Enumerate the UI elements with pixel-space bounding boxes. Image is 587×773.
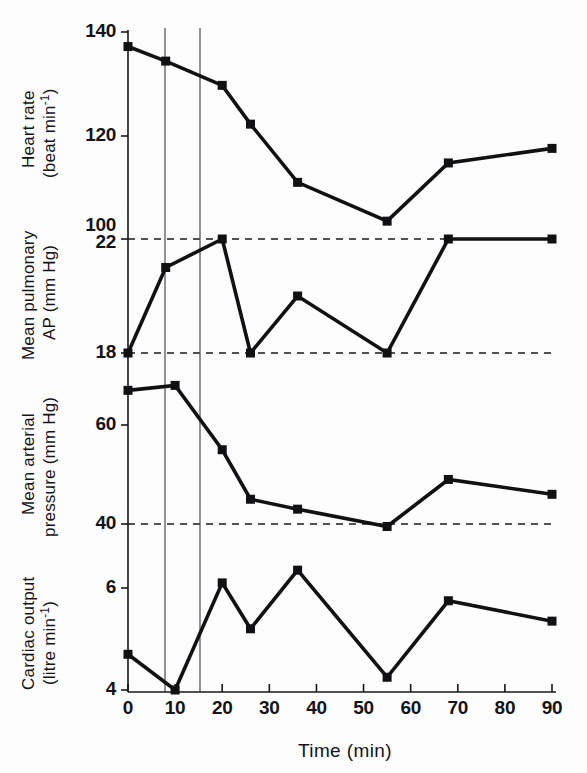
axis-title-pap-line1: Mean pulmonary [19, 230, 38, 360]
y-tick-co-4: 4 [106, 678, 117, 699]
data-point-marker [161, 263, 170, 272]
data-point-marker [293, 178, 302, 187]
data-point-marker [218, 81, 227, 90]
data-point-marker [218, 445, 227, 454]
data-point-marker [124, 386, 133, 395]
data-point-marker [171, 686, 180, 695]
x-tick-label-70: 70 [448, 697, 469, 718]
figure-container: Heart rate (beat min-1) Mean pulmonary A… [0, 0, 587, 773]
axis-title-map-line1: Mean arterial [19, 413, 38, 515]
axis-title-mean-pulmonary-ap: Mean pulmonary AP (mm Hg) [19, 230, 59, 360]
series-mean-pulmonary-ap [124, 235, 557, 358]
x-tick-label-50: 50 [353, 697, 374, 718]
multi-panel-line-chart: Heart rate (beat min-1) Mean pulmonary A… [0, 0, 587, 773]
data-point-marker [548, 617, 557, 626]
data-point-marker [124, 42, 133, 51]
y-axis-heart-rate: 140 120 100 [85, 20, 128, 235]
x-tick-label-60: 60 [400, 697, 421, 718]
data-point-marker [383, 349, 392, 358]
x-tick-label-90: 90 [542, 697, 563, 718]
data-point-marker [124, 650, 133, 659]
axis-title-heart-rate: Heart rate (beat min-1) [19, 88, 59, 178]
data-point-marker [293, 566, 302, 575]
data-line [128, 570, 552, 690]
y-axis-cardiac-output: 6 4 [106, 576, 128, 699]
x-tick-label-30: 30 [259, 697, 280, 718]
data-point-marker [548, 144, 557, 153]
y-tick-pap-22: 22 [95, 231, 116, 252]
data-point-marker [218, 578, 227, 587]
data-line [128, 239, 552, 353]
x-tick-label-0: 0 [123, 697, 133, 718]
y-axis-mean-arterial-pressure: 60 40 [95, 413, 128, 533]
data-point-marker [444, 235, 453, 244]
series-cardiac-output [124, 566, 557, 695]
data-point-marker [293, 292, 302, 301]
axis-title-mean-arterial-pressure: Mean arterial pressure (mm Hg) [19, 397, 59, 537]
data-point-marker [218, 235, 227, 244]
x-tick-label-20: 20 [212, 697, 233, 718]
data-point-marker [383, 673, 392, 682]
axis-title-cardiac-output: Cardiac output (litre min-1) [19, 577, 59, 690]
x-axis-title: Time (min) [298, 740, 392, 761]
data-point-marker [293, 505, 302, 514]
axis-title-map-line2: pressure (mm Hg) [40, 397, 59, 537]
y-axis-mean-pulmonary-ap: 22 18 [95, 231, 128, 362]
axis-title-pap-line2: AP (mm Hg) [40, 245, 59, 340]
data-point-marker [124, 349, 133, 358]
y-tick-hr-120: 120 [85, 124, 116, 145]
axis-title-co-line1: Cardiac output [19, 577, 38, 690]
data-point-marker [548, 490, 557, 499]
axis-title-co-line2: (litre min-1) [38, 601, 59, 685]
data-point-marker [246, 120, 255, 129]
data-point-marker [246, 495, 255, 504]
axis-title-heart-rate-line2: (beat min-1) [38, 88, 59, 178]
y-tick-hr-140: 140 [85, 20, 116, 41]
y-tick-map-60: 60 [95, 413, 116, 434]
series-heart-rate [124, 42, 557, 226]
data-point-marker [383, 217, 392, 226]
x-axis-ticks [128, 684, 552, 692]
data-line [128, 385, 552, 526]
data-point-marker [171, 381, 180, 390]
data-point-marker [444, 158, 453, 167]
data-point-marker [548, 235, 557, 244]
x-tick-label-40: 40 [306, 697, 327, 718]
x-tick-label-80: 80 [495, 697, 516, 718]
data-line [128, 47, 552, 222]
data-point-marker [246, 624, 255, 633]
x-tick-label-10: 10 [165, 697, 186, 718]
y-tick-map-40: 40 [95, 512, 116, 533]
data-point-marker [444, 596, 453, 605]
y-tick-pap-18: 18 [95, 341, 116, 362]
data-point-marker [246, 349, 255, 358]
y-tick-co-6: 6 [106, 576, 116, 597]
data-point-marker [383, 522, 392, 531]
series-mean-arterial-pressure [124, 381, 557, 531]
x-axis-tick-labels: 0102030405060708090 [123, 697, 562, 718]
data-point-marker [444, 475, 453, 484]
axis-title-heart-rate-line1: Heart rate [19, 90, 38, 168]
data-point-marker [161, 57, 170, 66]
